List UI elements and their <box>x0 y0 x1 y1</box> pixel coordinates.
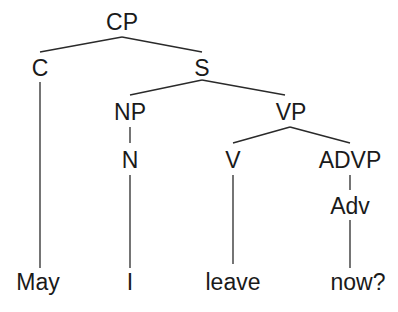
node-n: N <box>122 147 139 173</box>
node-vp: VP <box>276 99 307 125</box>
syntax-tree: CP C S NP VP N V ADVP Adv May I leave no… <box>0 0 398 312</box>
node-advp: ADVP <box>319 147 382 173</box>
edge-cp-c <box>40 37 122 52</box>
node-c: C <box>32 55 49 81</box>
edge-cp-s <box>122 37 202 52</box>
node-adv: Adv <box>330 193 370 219</box>
leaf-may: May <box>16 269 60 295</box>
edge-vp-v <box>233 127 290 143</box>
leaf-i: I <box>127 269 133 295</box>
edge-s-vp <box>202 80 285 95</box>
node-np: NP <box>114 99 146 125</box>
leaf-now: now? <box>331 269 386 295</box>
node-cp: CP <box>106 9 138 35</box>
edge-s-np <box>130 80 202 95</box>
node-v: V <box>225 147 241 173</box>
edge-vp-advp <box>290 127 350 143</box>
node-s: S <box>194 55 209 81</box>
leaf-leave: leave <box>206 269 261 295</box>
